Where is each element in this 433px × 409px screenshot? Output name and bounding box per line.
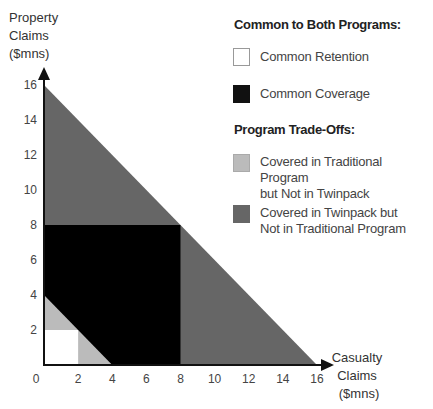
x-tick-label: 12	[242, 372, 256, 386]
legend-label: Covered in Twinpack but Not in Tradition…	[260, 205, 406, 237]
legend-group-common-title: Common to Both Programs:	[234, 17, 401, 32]
legend-label: Covered in Traditional Program but Not i…	[260, 154, 433, 202]
y-axis-label-line3: ($mns)	[9, 46, 49, 61]
swatch-black-icon	[233, 85, 250, 103]
x-tick-label: 8	[177, 372, 184, 386]
y-axis-label-line2: Claims	[9, 28, 49, 43]
y-tick-label: 2	[30, 323, 37, 337]
x-tick-label: 10	[208, 372, 222, 386]
legend-label-line1: Covered in Traditional Program	[260, 154, 433, 186]
y-tick-label: 6	[30, 253, 37, 267]
legend-label-line2: Not in Traditional Program	[260, 221, 406, 237]
y-axis-label-line1: Property	[9, 10, 59, 25]
region-common-retention	[44, 330, 78, 365]
y-tick-label: 8	[30, 218, 37, 232]
y-tick-labels: 246810121416	[24, 78, 38, 337]
x-tick-labels: 0246810121416	[33, 372, 324, 386]
legend-label-line2: but Not in Twinpack	[260, 186, 433, 202]
y-tick-label: 10	[24, 183, 38, 197]
legend-label: Common Retention	[260, 48, 369, 66]
x-axis-label-line1: Casualty	[332, 350, 383, 365]
legend-label: Common Coverage	[260, 85, 370, 103]
x-tick-label: 6	[143, 372, 150, 386]
legend-item-common-coverage: Common Coverage	[233, 85, 370, 103]
x-tick-label: 0	[33, 372, 40, 386]
x-tick-label: 4	[109, 372, 116, 386]
legend-item-common-retention: Common Retention	[233, 48, 369, 66]
x-tick-label: 16	[310, 372, 324, 386]
y-tick-label: 12	[24, 148, 38, 162]
x-tick-label: 14	[276, 372, 290, 386]
swatch-white-icon	[233, 48, 250, 66]
legend-group-tradeoffs-title: Program Trade-Offs:	[234, 122, 355, 137]
y-tick-label: 16	[24, 78, 38, 92]
y-tick-label: 14	[24, 113, 38, 127]
swatch-darkgray-icon	[233, 205, 250, 223]
swatch-lightgray-icon	[233, 154, 250, 172]
legend-label-line1: Covered in Twinpack but	[260, 205, 406, 221]
legend-item-traditional-only: Covered in Traditional Program but Not i…	[233, 154, 433, 202]
x-axis-label-line2: Claims	[337, 368, 377, 383]
y-axis-arrow-icon	[38, 67, 50, 80]
legend-item-twinpack-only: Covered in Twinpack but Not in Tradition…	[233, 205, 406, 237]
x-axis-label-line3: ($mns)	[339, 386, 379, 401]
x-tick-label: 2	[75, 372, 82, 386]
y-tick-label: 4	[30, 288, 37, 302]
